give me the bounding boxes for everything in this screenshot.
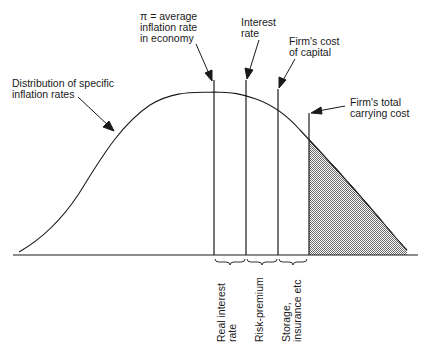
label-average-inflation: π = average inflation rate in economy [140, 11, 197, 44]
arrow-avg-inflation [196, 44, 212, 81]
arrow-carrying-cost [311, 106, 345, 114]
label-distribution: Distribution of specific inflation rates [12, 78, 114, 100]
label-cost-of-capital: Firm's cost of capital [289, 36, 339, 58]
brace-real-interest [215, 259, 245, 265]
brace-storage [279, 259, 307, 265]
label-carrying-cost: Firm's total carrying cost [350, 97, 410, 119]
shaded-tail-region [309, 139, 407, 255]
brace-risk-premium [247, 259, 277, 265]
label-interest-rate: Interest rate [241, 17, 276, 39]
arrow-cost-of-capital [279, 59, 295, 88]
arrow-distribution [78, 97, 114, 131]
brace-label-risk-premium: Risk-premium [254, 277, 265, 342]
brace-label-real-interest: Real interest rate [216, 283, 238, 342]
brace-label-storage: Storage, insurance etc [281, 280, 303, 342]
arrow-interest-rate [245, 40, 259, 79]
